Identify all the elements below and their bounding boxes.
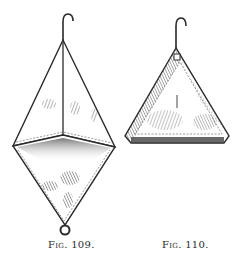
fig-110-drawing	[125, 18, 229, 143]
hook-icon	[63, 14, 73, 40]
hook-icon	[176, 18, 186, 48]
fig-110-caption: Fig. 110.	[162, 239, 209, 250]
fig-109-drawing	[13, 14, 115, 235]
illustration	[0, 0, 238, 266]
fig-109-caption: Fig. 109.	[48, 239, 95, 250]
ring-icon	[61, 226, 70, 235]
